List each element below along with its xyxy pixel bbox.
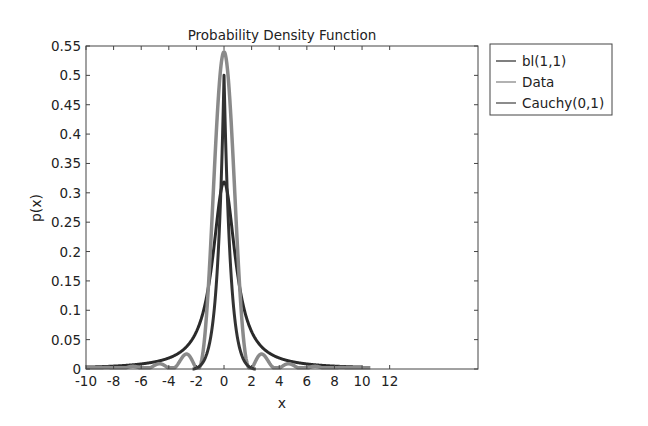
chart-title: Probability Density Function <box>188 27 377 43</box>
x-tick-label: 8 <box>330 373 339 389</box>
x-tick-label: -8 <box>107 373 120 389</box>
legend-item-label: bl(1,1) <box>522 53 566 69</box>
y-tick-label: 0.35 <box>51 155 81 171</box>
x-tick-label: -6 <box>134 373 147 389</box>
y-tick-label: 0 <box>72 361 81 377</box>
x-axis-label: x <box>278 395 286 411</box>
legend: bl(1,1)DataCauchy(0,1) <box>490 44 612 115</box>
legend-item-label: Data <box>522 74 554 90</box>
y-tick-label: 0.3 <box>60 185 81 201</box>
x-tick-label: -2 <box>190 373 203 389</box>
legend-item-label: Cauchy(0,1) <box>522 95 604 111</box>
series-bl-1-1--line <box>193 75 256 369</box>
plot-frame <box>86 46 478 369</box>
y-tick-label: 0.15 <box>51 273 81 289</box>
pdf-chart: Probability Density Function -10-8-6-4-2… <box>0 0 648 426</box>
y-tick-label: 0.4 <box>60 126 81 142</box>
y-tick-label: 0.2 <box>60 244 81 260</box>
x-tick-label: 4 <box>275 373 284 389</box>
y-tick-label: 0.25 <box>51 214 81 230</box>
y-axis-ticks: 00.050.10.150.20.250.30.350.40.450.50.55 <box>51 38 478 377</box>
y-tick-label: 0.5 <box>60 67 81 83</box>
x-tick-label: -4 <box>162 373 175 389</box>
x-tick-label: 6 <box>303 373 312 389</box>
x-tick-label: 12 <box>381 373 398 389</box>
x-tick-label: 10 <box>353 373 370 389</box>
series-cauchy-0-1--line <box>86 182 362 367</box>
plot-curves <box>86 52 370 369</box>
y-tick-label: 0.55 <box>51 38 81 54</box>
y-tick-label: 0.1 <box>60 302 81 318</box>
y-tick-label: 0.45 <box>51 97 81 113</box>
y-tick-label: 0.05 <box>51 332 81 348</box>
y-axis-label: p(x) <box>28 194 44 222</box>
x-tick-label: 2 <box>247 373 256 389</box>
x-tick-label: 0 <box>220 373 229 389</box>
